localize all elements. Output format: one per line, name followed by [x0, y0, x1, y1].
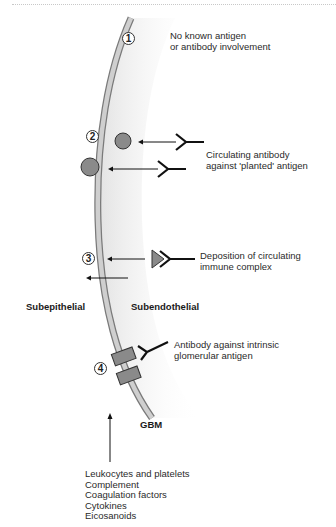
mediator-item: Leukocytes and platelets — [85, 469, 190, 480]
region-subepithelial: Subepithelial — [26, 302, 85, 313]
gbm-label: GBM — [140, 420, 162, 431]
marker-3: 3 — [82, 252, 95, 265]
annotation-4: Antibody against intrinsic glomerular an… — [174, 340, 279, 361]
antibody-icon — [160, 251, 195, 267]
mediator-item: Coagulation factors — [85, 490, 190, 501]
planted-antigen-outer — [81, 158, 99, 176]
marker-4: 4 — [94, 362, 107, 375]
marker-1: 1 — [122, 32, 135, 45]
planted-antigen-inner — [115, 133, 131, 149]
antibody-icon — [176, 134, 204, 150]
marker-2: 2 — [86, 130, 99, 143]
annotation-3: Deposition of circulating immune complex — [200, 251, 301, 272]
antibody-icon — [158, 161, 186, 177]
region-subendothelial: Subendothelial — [131, 302, 199, 313]
mediators-list: Leukocytes and platelets Complement Coag… — [85, 469, 190, 522]
annotation-2: Circulating antibody against 'planted' a… — [206, 150, 308, 171]
mediator-item: Eicosanoids — [85, 511, 190, 522]
annotation-1: No known antigen or antibody involvement — [170, 31, 270, 52]
